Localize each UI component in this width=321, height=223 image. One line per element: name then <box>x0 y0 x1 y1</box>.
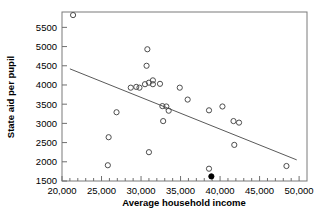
data-point <box>236 120 241 125</box>
data-point <box>206 166 211 171</box>
x-tick-label: 50,000 <box>285 185 314 196</box>
data-point <box>185 97 190 102</box>
data-points-open <box>70 12 289 171</box>
data-point <box>105 163 110 168</box>
y-tick-label: 4000 <box>36 79 57 90</box>
y-tick-label: 5000 <box>36 41 57 52</box>
x-axis-title: Average household income <box>122 197 246 208</box>
y-axis-tick-labels: 150020002500300035004000450050005500 <box>36 22 57 187</box>
x-tick-label: 40,000 <box>206 185 235 196</box>
x-axis-ticks <box>62 176 299 181</box>
y-axis-ticks <box>62 27 67 181</box>
data-point <box>157 81 162 86</box>
data-point <box>146 150 151 155</box>
data-point <box>145 47 150 52</box>
y-axis-title: State aid per pupil <box>5 56 16 138</box>
x-tick-label: 25,000 <box>87 185 116 196</box>
x-tick-label: 45,000 <box>245 185 274 196</box>
plot-frame <box>62 12 307 181</box>
y-tick-label: 4500 <box>36 60 57 71</box>
data-point <box>114 110 119 115</box>
data-point <box>70 12 75 17</box>
y-tick-label: 3500 <box>36 99 57 110</box>
data-point-highlighted <box>209 174 214 179</box>
data-point <box>144 63 149 68</box>
data-point <box>137 85 142 90</box>
y-tick-label: 2000 <box>36 156 57 167</box>
data-point <box>161 118 166 123</box>
x-tick-label: 35,000 <box>166 185 195 196</box>
regression-line <box>70 69 297 160</box>
trend-line <box>70 69 297 160</box>
data-point <box>206 108 211 113</box>
data-point <box>284 163 289 168</box>
data-point <box>231 118 236 123</box>
y-tick-label: 3000 <box>36 118 57 129</box>
y-tick-label: 2500 <box>36 137 57 148</box>
data-point <box>128 85 133 90</box>
y-tick-label: 5500 <box>36 22 57 33</box>
x-axis-tick-labels: 20,00025,00030,00035,00040,00045,00050,0… <box>47 185 313 196</box>
x-tick-label: 20,000 <box>47 185 76 196</box>
x-tick-label: 30,000 <box>127 185 156 196</box>
scatter-chart: 20,00025,00030,00035,00040,00045,00050,0… <box>0 0 321 223</box>
data-point <box>106 135 111 140</box>
data-point <box>177 85 182 90</box>
data-point <box>232 142 237 147</box>
highlighted-data-point <box>209 174 214 179</box>
data-point <box>220 104 225 109</box>
chart-canvas: 20,00025,00030,00035,00040,00045,00050,0… <box>0 0 321 223</box>
y-tick-label: 1500 <box>36 175 57 186</box>
